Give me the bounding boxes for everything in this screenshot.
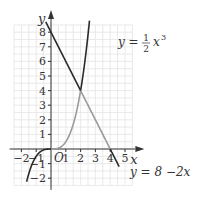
cubic-label: y = 1 2 x 3: [117, 33, 166, 54]
y-tick-label: 7: [39, 41, 46, 54]
ticks: −2−112345−2−112345678: [13, 26, 128, 185]
chart: −2−112345−2−112345678 x y O y = 1 2 x 3 …: [0, 0, 198, 203]
y-tick-label: 8: [39, 26, 46, 39]
y-axis-arrow-icon: [48, 10, 54, 19]
cubic-label-prefix: y =: [117, 35, 139, 49]
x-tick-label: 3: [92, 152, 99, 165]
y-tick-label: 6: [39, 55, 46, 68]
y-axis-label: y: [37, 11, 46, 26]
x-tick-label: −2: [13, 152, 29, 165]
cubic-label-variable: x: [153, 35, 160, 49]
cubic-label-exponent: 3: [161, 33, 166, 42]
y-tick-label: 4: [39, 85, 46, 98]
y-tick-label: 5: [39, 70, 46, 83]
line-label: y = 8 −2x: [129, 165, 191, 179]
x-tick-label: 5: [122, 152, 129, 165]
cubic-label-denominator: 2: [143, 44, 149, 54]
y-tick-label: −2: [30, 172, 46, 185]
y-tick-label: 3: [39, 99, 46, 112]
y-tick-label: 1: [39, 128, 46, 141]
origin-label: O: [54, 151, 64, 165]
cubic-label-numerator: 1: [143, 33, 149, 43]
y-tick-label: 2: [39, 114, 46, 127]
x-tick-label: 2: [77, 152, 84, 165]
